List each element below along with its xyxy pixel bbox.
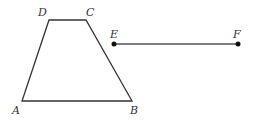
label-a: A xyxy=(11,104,20,117)
label-f: F xyxy=(232,28,241,41)
label-c: C xyxy=(86,6,95,19)
label-e: E xyxy=(109,28,118,41)
label-d: D xyxy=(37,6,47,19)
point-e xyxy=(112,42,117,47)
label-b: B xyxy=(129,104,138,117)
geometry-diagram: A B C D E F xyxy=(0,0,253,124)
point-f xyxy=(236,42,241,47)
